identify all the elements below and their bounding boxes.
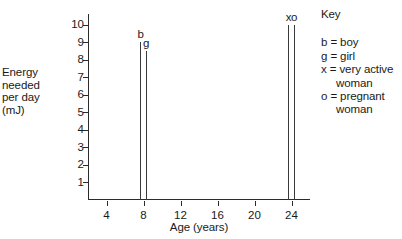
legend-entry-3: o = pregnant <box>321 90 393 103</box>
legend: Key b = boyg = girlx = very activewomano… <box>321 8 393 117</box>
bar-label-o: o <box>291 11 297 23</box>
legend-entries: b = boyg = girlx = very activewomano = p… <box>321 36 393 116</box>
legend-entry-3-continued: woman <box>321 103 393 116</box>
y-axis-label-line-3: per day <box>2 91 62 104</box>
x-tick-label: 16 <box>211 208 224 222</box>
legend-entry-0: b = boy <box>321 36 393 49</box>
legend-entry-2: x = very active <box>321 63 393 76</box>
plot-area: 12345678910 4812162024 bgxo <box>88 14 310 200</box>
y-tick-label: 8 <box>78 52 84 66</box>
legend-title: Key <box>321 8 393 21</box>
energy-vs-age-chart: Energy needed per day (mJ) 12345678910 4… <box>0 0 402 239</box>
x-tick-label: 4 <box>103 208 109 222</box>
bar-x <box>288 25 289 200</box>
y-tick-label: 7 <box>78 70 84 84</box>
bar-b <box>140 42 141 200</box>
y-axis-label-line-4: (mJ) <box>2 104 62 117</box>
y-tick-label: 6 <box>78 87 84 101</box>
bar-o <box>294 25 295 200</box>
x-axis-label: Age (years) <box>88 221 310 233</box>
x-tick-mark <box>144 201 145 206</box>
y-tick-label: 5 <box>78 105 84 119</box>
y-axis-label: Energy needed per day (mJ) <box>2 66 62 116</box>
x-tick-mark <box>218 201 219 206</box>
x-tick-label: 8 <box>140 208 146 222</box>
y-axis-label-line-1: Energy <box>2 66 62 79</box>
x-tick-label: 20 <box>248 208 261 222</box>
y-tick-label: 4 <box>78 122 84 136</box>
x-axis-line <box>88 199 310 200</box>
y-tick-label: 2 <box>78 157 84 171</box>
x-tick-mark <box>107 201 108 206</box>
y-tick-label: 9 <box>78 35 84 49</box>
x-tick-mark <box>255 201 256 206</box>
x-tick-mark <box>181 201 182 206</box>
y-tick-label: 10 <box>71 17 84 31</box>
bar-g <box>146 51 147 200</box>
y-tick-label: 3 <box>78 140 84 154</box>
x-tick-label: 12 <box>174 208 187 222</box>
legend-entry-1: g = girl <box>321 50 393 63</box>
x-tick-label: 24 <box>285 208 298 222</box>
x-tick-mark <box>292 201 293 206</box>
y-axis-label-line-2: needed <box>2 79 62 92</box>
y-tick-label: 1 <box>78 175 84 189</box>
legend-entry-2-continued: woman <box>321 77 393 90</box>
bar-label-g: g <box>143 37 149 49</box>
